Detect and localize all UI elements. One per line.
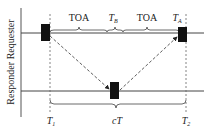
axis-label: Responder Requester <box>5 19 16 105</box>
top-brace <box>50 27 179 32</box>
t1-label: T1 <box>47 115 56 127</box>
ct-label: cT <box>112 115 123 126</box>
ranging-diagram: Responder Requester TOA TB TOA TA T1 cT … <box>0 0 214 136</box>
toa-right-label: TOA <box>137 12 158 23</box>
requester-tx-block <box>41 24 50 41</box>
bottom-brace <box>50 100 186 108</box>
t2-label: T2 <box>182 115 191 127</box>
signal-to-responder <box>50 36 109 89</box>
tb-label: TB <box>108 12 118 24</box>
signal-to-requester <box>120 37 177 90</box>
requester-rx-block <box>178 27 187 42</box>
responder-block <box>110 82 119 99</box>
toa-left-label: TOA <box>69 12 90 23</box>
ta-label: TA <box>172 12 182 24</box>
